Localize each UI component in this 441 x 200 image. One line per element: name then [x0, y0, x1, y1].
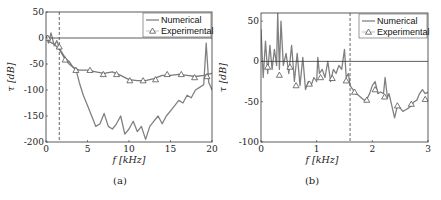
y-tick-label: 0: [253, 56, 259, 66]
y-tick-label: 0: [38, 33, 44, 43]
legend-numerical-label: Numerical: [161, 15, 202, 25]
legend: NumericalExperimental: [143, 13, 214, 37]
chart-panel-b: 0123-100-50050f [kHz]τ [dB](b)NumericalE…: [217, 13, 431, 186]
figure: 05101520-200-150-100-50050f [kHz]τ [dB](…: [0, 0, 441, 200]
x-tick-label: 5: [85, 144, 91, 154]
panel-caption: (b): [305, 175, 319, 186]
panel-caption: (a): [113, 175, 127, 186]
legend-numerical-label: Numerical: [377, 16, 418, 26]
x-tick-label: 2: [369, 144, 375, 154]
x-tick-label: 15: [165, 144, 177, 154]
y-tick-label: -50: [30, 59, 45, 69]
x-axis-label: f [kHz]: [112, 154, 146, 165]
y-axis-label: τ [dB]: [5, 62, 16, 91]
legend: NumericalExperimental: [359, 14, 430, 38]
legend-experimental-label: Experimental: [377, 27, 430, 37]
x-axis-label: f [kHz]: [305, 154, 339, 165]
y-tick-label: -150: [24, 111, 44, 121]
y-tick-label: -50: [245, 97, 260, 107]
chart-panel-a: 05101520-200-150-100-50050f [kHz]τ [dB](…: [5, 7, 218, 186]
y-tick-label: -100: [24, 85, 44, 95]
x-tick-label: 10: [123, 144, 135, 154]
x-tick-label: 1: [314, 144, 320, 154]
x-tick-label: 20: [206, 144, 218, 154]
x-tick-label: 3: [425, 144, 431, 154]
legend-experimental-label: Experimental: [161, 26, 214, 36]
y-tick-label: -100: [239, 137, 259, 147]
y-tick-label: 50: [248, 16, 260, 26]
y-tick-label: -200: [24, 137, 44, 147]
x-tick-label: 0: [258, 144, 264, 154]
y-axis-label: τ [dB]: [217, 63, 228, 92]
x-tick-label: 0: [43, 144, 49, 154]
y-tick-label: 50: [33, 7, 45, 17]
